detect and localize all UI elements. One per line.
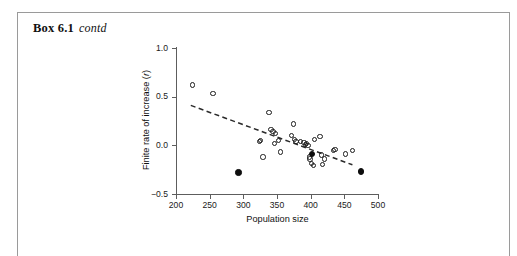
data-point-open — [190, 82, 195, 87]
data-point-open — [266, 110, 271, 115]
x-axis-title: Population size — [176, 214, 379, 224]
data-point-open — [350, 148, 355, 153]
regression-dashed-line — [191, 105, 353, 164]
data-point-filled — [235, 169, 241, 175]
data-point-open — [317, 134, 322, 139]
data-point-open — [260, 154, 265, 159]
y-axis-title: Finite rate of increase (r) — [141, 70, 151, 170]
data-point-open — [291, 121, 296, 126]
data-point-open — [210, 91, 215, 96]
data-point-open — [278, 149, 283, 154]
data-point-open — [332, 147, 337, 152]
data-point-open — [305, 143, 310, 148]
